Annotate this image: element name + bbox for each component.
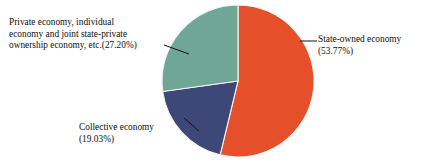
pie-chart-figure: Private economy, individual economy and … bbox=[0, 0, 425, 162]
slice-label-state-owned: State-owned economy (53.77%) bbox=[318, 34, 423, 57]
slice-label-private: Private economy, individual economy and … bbox=[9, 17, 161, 52]
slice-label-collective: Collective economy (19.03%) bbox=[79, 122, 189, 145]
